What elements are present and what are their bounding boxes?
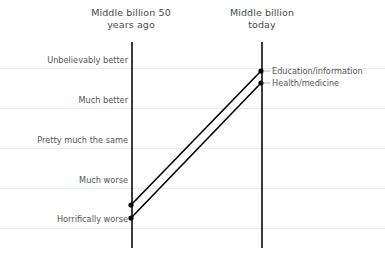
series-lines bbox=[0, 0, 385, 263]
slope-line-1 bbox=[131, 83, 261, 218]
data-point-marker-1-start bbox=[128, 215, 133, 220]
series-label-1: Health/medicine bbox=[272, 78, 339, 88]
series-label-0: Education/information bbox=[272, 66, 363, 76]
data-point-marker-1-end bbox=[258, 80, 263, 85]
slope-line-0 bbox=[131, 71, 261, 205]
data-point-marker-0-start bbox=[128, 202, 133, 207]
data-point-marker-0-end bbox=[258, 68, 263, 73]
slopegraph-chart: Middle billion 50 years ago Middle billi… bbox=[0, 0, 385, 263]
